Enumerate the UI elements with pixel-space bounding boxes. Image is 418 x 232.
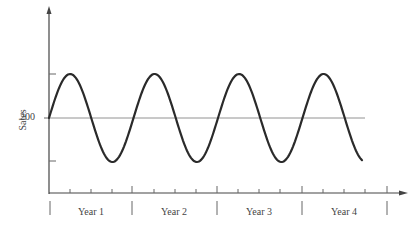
year-label-2: Year 2 [161, 206, 187, 217]
year-label-4: Year 4 [331, 206, 357, 217]
y-axis-arrow-icon [47, 6, 52, 14]
year-label-3: Year 3 [246, 206, 272, 217]
y-tick-label-200: 200 [20, 111, 35, 122]
x-axis-arrow-icon [399, 191, 408, 196]
sales-chart [0, 0, 418, 232]
year-label-1: Year 1 [78, 206, 104, 217]
